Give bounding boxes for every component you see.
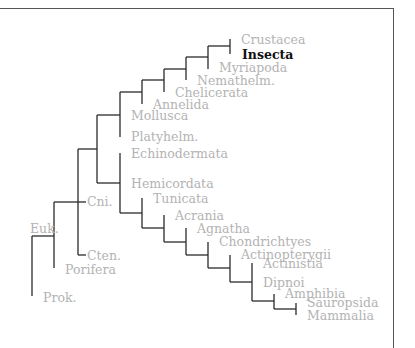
taxon-platyhelm: Platyhelm. [131,129,198,144]
taxon-mammalia: Mammalia [307,308,374,323]
taxon-hemicordata: Hemicordata [131,176,214,191]
taxon-porifera: Porifera [65,262,116,277]
taxon-crustacea: Crustacea [241,32,306,47]
taxon-echinodermata: Echinodermata [131,146,228,161]
taxon-tunicata: Tunicata [153,191,209,206]
taxon-mollusca: Mollusca [131,108,189,123]
taxon-euk: Euk. [30,221,59,236]
taxon-cni: Cni. [87,194,113,209]
taxon-cten: Cten. [87,248,121,263]
taxon-actinistia: Actinistia [262,256,324,271]
taxon-prok: Prok. [43,290,76,305]
